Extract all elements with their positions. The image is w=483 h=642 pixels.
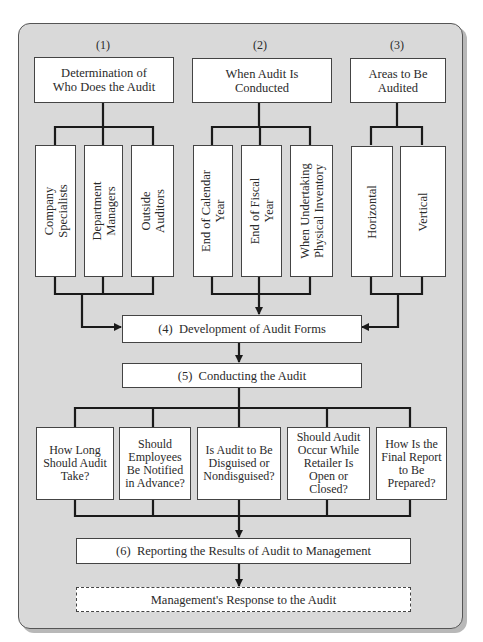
stage-3-label: Areas to Be Audited bbox=[368, 67, 427, 95]
option-label: Horizontal bbox=[365, 185, 379, 238]
stage-1-box: Determination of Who Does the Audit bbox=[34, 57, 174, 103]
option-label: Vertical bbox=[416, 192, 430, 231]
stage-3-box: Areas to Be Audited bbox=[350, 58, 446, 103]
question-open-or-closed: Should Audit Occur While Retailer Is Ope… bbox=[287, 427, 370, 500]
option-label: End of Fiscal Year bbox=[248, 178, 276, 245]
option-company-specialists: Company Specialists bbox=[35, 145, 76, 277]
management-response-box: Management's Response to the Audit bbox=[76, 587, 411, 612]
step-5-box: (5) Conducting the Audit bbox=[122, 363, 362, 388]
option-label: When Undertaking Physical Inventory bbox=[298, 163, 326, 258]
option-end-of-fiscal-year: End of Fiscal Year bbox=[241, 145, 282, 277]
stage-number-2: (2) bbox=[240, 38, 280, 53]
question-duration: How Long Should Audit Take? bbox=[36, 427, 114, 500]
step-4-label: (4) Development of Audit Forms bbox=[158, 322, 326, 336]
question-final-report: How Is the Final Report to Be Prepared? bbox=[376, 427, 447, 500]
option-physical-inventory: When Undertaking Physical Inventory bbox=[290, 145, 333, 277]
stage-2-label: When Audit Is Conducted bbox=[226, 67, 299, 95]
step-6-label: (6) Reporting the Results of Audit to Ma… bbox=[116, 544, 371, 558]
option-label: Company Specialists bbox=[42, 184, 70, 237]
step-4-box: (4) Development of Audit Forms bbox=[122, 315, 362, 343]
stage-2-box: When Audit Is Conducted bbox=[192, 58, 332, 103]
question-label: Should Audit Occur While Retailer Is Ope… bbox=[297, 431, 361, 496]
option-label: Outside Auditors bbox=[139, 189, 167, 233]
step-6-box: (6) Reporting the Results of Audit to Ma… bbox=[76, 538, 411, 564]
option-label: End of Calendar Year bbox=[199, 170, 227, 252]
question-notify-employees: Should Employees Be Notified in Advance? bbox=[119, 427, 191, 500]
step-5-label: (5) Conducting the Audit bbox=[178, 369, 306, 383]
question-disguised: Is Audit to Be Disguised or Nondisguised… bbox=[197, 427, 281, 500]
option-department-managers: Department Managers bbox=[84, 145, 123, 277]
management-response-label: Management's Response to the Audit bbox=[151, 593, 337, 607]
question-label: How Is the Final Report to Be Prepared? bbox=[381, 438, 441, 490]
question-label: How Long Should Audit Take? bbox=[43, 444, 107, 483]
stage-number-3: (3) bbox=[377, 38, 417, 53]
option-vertical: Vertical bbox=[400, 146, 446, 277]
option-horizontal: Horizontal bbox=[351, 146, 393, 277]
option-end-of-calendar-year: End of Calendar Year bbox=[193, 145, 233, 277]
question-label: Is Audit to Be Disguised or Nondisguised… bbox=[203, 444, 274, 483]
question-label: Should Employees Be Notified in Advance? bbox=[125, 438, 185, 490]
option-outside-auditors: Outside Auditors bbox=[131, 145, 174, 277]
option-label: Department Managers bbox=[90, 181, 118, 240]
stage-number-1: (1) bbox=[83, 38, 123, 53]
stage-1-label: Determination of Who Does the Audit bbox=[53, 66, 155, 94]
